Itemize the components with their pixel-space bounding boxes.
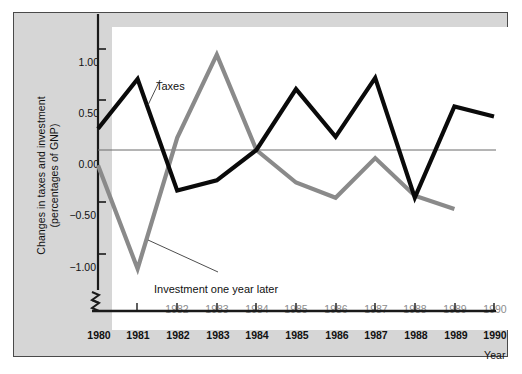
line-series-taxes [98,78,494,198]
chart-figure: Changes in taxes and investment (percent… [0,0,522,374]
leader-line-investment [148,240,218,272]
leader-line-taxes [148,80,160,105]
chart-vector-layer [0,0,522,374]
axis-break-icon-second [92,300,99,311]
